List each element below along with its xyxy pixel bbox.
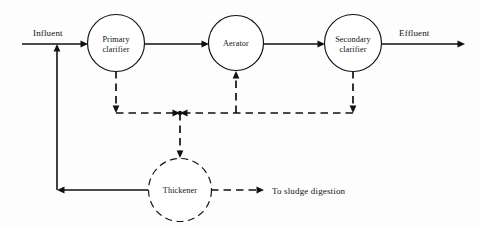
junction-group — [178, 111, 182, 115]
unit-label-line2-secondary-clarifier: clarifier — [340, 45, 367, 54]
arrowhead-secondary-sludge-drop — [350, 106, 357, 114]
unit-label-secondary-clarifier: Secondaryclarifier — [335, 35, 371, 54]
unit-label-primary-clarifier: Primaryclarifier — [102, 35, 130, 54]
arrowhead-thickener-overflow-return — [57, 187, 65, 194]
arrowhead-aerator-to-secondary — [318, 41, 326, 48]
arrowhead-return-riser-to-influent — [54, 44, 61, 52]
junction-sludge-bus-tee — [178, 111, 182, 115]
unit-label-aerator: Aerator — [223, 39, 249, 48]
unit-label-line1-thickener: Thickener — [163, 186, 197, 195]
arrowhead-sludge-to-thickener — [177, 151, 184, 159]
flow-diagram-canvas: PrimaryclarifierAeratorSecondaryclarifie… — [0, 0, 479, 228]
arrowhead-effluent-discharge — [458, 41, 466, 48]
process-flow-diagram: PrimaryclarifierAeratorSecondaryclarifie… — [0, 0, 479, 228]
arrowhead-thickened-sludge-out — [257, 187, 265, 194]
unit-label-line1-secondary-clarifier: Secondary — [335, 35, 371, 44]
arrowhead-primary-to-aerator — [202, 41, 210, 48]
effluent-label: Effluent — [399, 28, 430, 38]
influent-label: Influent — [33, 28, 63, 38]
unit-label-thickener: Thickener — [163, 186, 197, 195]
to-sludge-digestion-label: To sludge digestion — [272, 186, 346, 196]
arrowhead-influent-feed — [81, 41, 89, 48]
unit-label-line2-primary-clarifier: clarifier — [103, 45, 130, 54]
arrowhead-primary-sludge-drop — [113, 106, 120, 114]
unit-label-line1-aerator: Aerator — [223, 39, 249, 48]
unit-label-line1-primary-clarifier: Primary — [102, 35, 130, 44]
arrowhead-return-sludge-to-aerator — [233, 71, 240, 79]
